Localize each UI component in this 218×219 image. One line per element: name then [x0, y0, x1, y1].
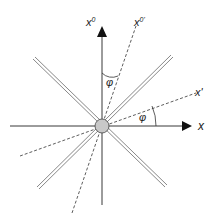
angle-label-space: φ — [139, 111, 146, 123]
space-axis-label: x — [197, 119, 205, 133]
time-axis-prime-label: x0' — [133, 16, 145, 28]
time-axis-arrow-icon — [97, 26, 107, 37]
time-axis-label: x0 — [85, 16, 96, 28]
angle-label-time: φ — [106, 76, 113, 88]
space-axis-prime-label: x' — [194, 86, 204, 98]
angle-arc-space — [152, 106, 156, 126]
origin-event — [95, 119, 109, 133]
space-axis-arrow-icon — [182, 121, 192, 131]
spacetime-diagram: x0 x0' x x' φ φ — [0, 0, 218, 219]
